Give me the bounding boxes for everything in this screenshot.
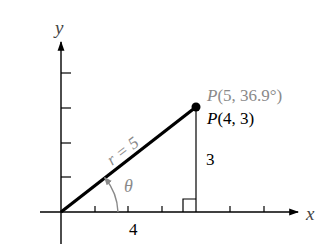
polar-coordinate-diagram: y x P(5, 36.9°) P(4, 3) r = 5 θ 4 3 <box>0 0 332 252</box>
rectangular-coordinates-value: (4, 3) <box>217 109 254 128</box>
rectangular-coordinates-label: P(4, 3) <box>206 109 254 128</box>
x-axis-ticks <box>95 206 264 212</box>
y-axis-ticks <box>61 73 71 177</box>
angle-arc-icon <box>105 178 118 212</box>
right-angle-marker <box>183 199 196 212</box>
y-axis-label: y <box>53 17 64 38</box>
vertical-leg-label: 3 <box>206 150 215 169</box>
point-p <box>192 103 201 112</box>
polar-coordinates-label: P(5, 36.9°) <box>206 86 282 105</box>
angle-label: θ <box>124 176 133 196</box>
x-axis-label: x <box>305 203 315 224</box>
radius-segment <box>61 107 196 212</box>
horizontal-leg-label: 4 <box>129 220 138 239</box>
polar-coordinates-value: (5, 36.9°) <box>217 86 282 105</box>
